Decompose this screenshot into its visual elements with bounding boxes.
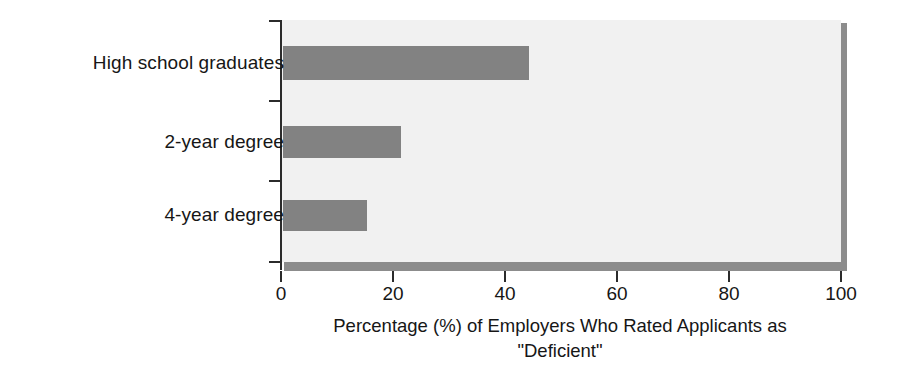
y-axis-tick (269, 180, 281, 182)
x-axis-tick (840, 271, 842, 282)
bar-chart: High school graduates 2-year degree 4-ye… (0, 0, 898, 383)
x-tick-label-80: 80 (718, 283, 739, 305)
x-tick-label-0: 0 (276, 283, 287, 305)
y-axis-tick (269, 100, 281, 102)
x-axis-title-line-1: Percentage (%) of Employers Who Rated Ap… (210, 313, 898, 338)
x-tick-label-40: 40 (494, 283, 515, 305)
x-axis-tick (392, 271, 394, 282)
y-axis-tick (269, 20, 281, 22)
chart-floor-shadow (284, 262, 844, 271)
x-tick-label-60: 60 (606, 283, 627, 305)
bar-4-year-degree (283, 200, 367, 231)
x-axis-tick (728, 271, 730, 282)
bar-2-year-degree (283, 126, 401, 158)
chart-right-shadow (841, 23, 847, 271)
x-axis-tick (280, 271, 282, 282)
y-axis-tick (269, 261, 281, 263)
x-tick-label-20: 20 (382, 283, 403, 305)
x-axis-tick (616, 271, 618, 282)
category-label-4-year-degree: 4-year degree (164, 204, 284, 226)
x-axis-tick (504, 271, 506, 282)
x-axis-title-line-2: "Deficient" (210, 338, 898, 363)
x-axis-title: Percentage (%) of Employers Who Rated Ap… (210, 313, 898, 363)
x-tick-label-100: 100 (825, 283, 857, 305)
category-label-high-school-graduates: High school graduates (93, 52, 284, 74)
bar-high-school-graduates (283, 46, 529, 80)
category-label-2-year-degree: 2-year degree (164, 131, 284, 153)
